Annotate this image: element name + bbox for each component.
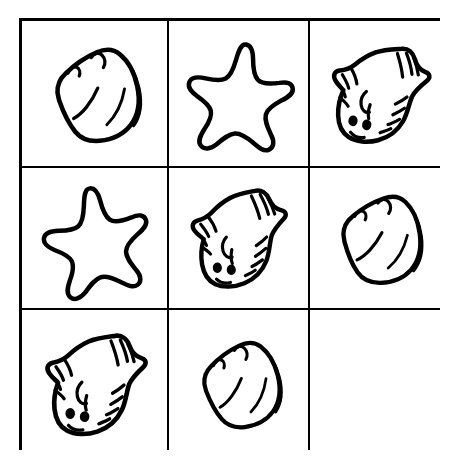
matrix-cell-r1c3[interactable] <box>310 21 447 166</box>
matrix-cell-r3c1[interactable] <box>22 310 167 457</box>
shell-icon <box>317 176 441 300</box>
matrix-cell-r3c3-blank[interactable] <box>310 310 447 457</box>
matrix-cell-r2c3[interactable] <box>310 168 447 308</box>
matrix-cell-r3c2[interactable] <box>169 310 308 457</box>
matrix-reasoning-puzzle <box>0 0 461 468</box>
matrix-grid <box>19 18 440 450</box>
matrix-cell-r2c2[interactable] <box>169 168 308 308</box>
shell-icon <box>30 29 160 159</box>
matrix-cell-r1c1[interactable] <box>22 21 167 166</box>
flatfish-icon <box>315 30 443 158</box>
matrix-cell-r1c2[interactable] <box>169 21 308 166</box>
matrix-cell-r2c1[interactable] <box>22 168 167 308</box>
flatfish-icon <box>29 318 161 450</box>
starfish-icon <box>31 174 159 302</box>
flatfish-icon <box>176 175 302 301</box>
shell-icon <box>179 324 299 444</box>
starfish-icon <box>175 30 303 158</box>
